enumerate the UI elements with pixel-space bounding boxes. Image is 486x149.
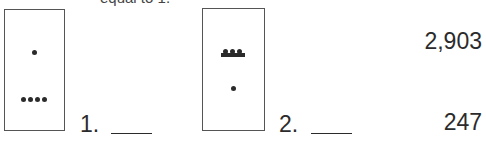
mayan-numeral-box-1	[4, 9, 65, 131]
answer-blank-1[interactable]	[111, 133, 152, 134]
dot-icon	[42, 97, 47, 102]
answer-choice-1: 2,903	[424, 30, 482, 53]
mayan-numeral-box-2	[202, 8, 265, 131]
problem-number-1: 1.	[80, 113, 99, 136]
dot-icon	[28, 97, 33, 102]
instruction-caption: equal to 1.	[100, 0, 170, 6]
dot-icon	[21, 97, 26, 102]
problem-number-2: 2.	[279, 113, 298, 136]
bar-icon	[221, 53, 245, 57]
dot-icon	[35, 97, 40, 102]
dot-icon	[32, 50, 37, 55]
answer-blank-2[interactable]	[311, 133, 352, 134]
answer-choice-2: 247	[444, 111, 482, 134]
dot-icon	[231, 86, 236, 91]
